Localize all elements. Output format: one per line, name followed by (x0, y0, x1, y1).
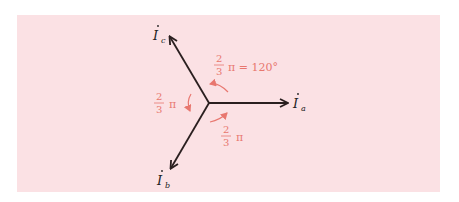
phasor-ib-arrow (171, 103, 209, 168)
svg-text:a: a (301, 104, 306, 113)
svg-text:π: π (169, 98, 176, 111)
angle-label-bottom: 2 3 π (221, 124, 243, 148)
angle-arc-top (210, 84, 228, 92)
label-ia: I a (292, 93, 306, 113)
svg-text:c: c (161, 36, 166, 45)
svg-text:3: 3 (156, 104, 162, 115)
svg-text:π: π (236, 131, 243, 144)
svg-text:b: b (165, 181, 170, 190)
svg-text:I: I (152, 28, 159, 43)
angle-arc-left (188, 94, 191, 111)
phasor-diagram: I a I c I b 2 3 π = 120° 2 3 π 2 3 π (0, 0, 459, 202)
svg-text:I: I (156, 173, 163, 188)
svg-text:3: 3 (223, 137, 229, 148)
svg-text:π = 120°: π = 120° (228, 61, 278, 74)
svg-text:2: 2 (223, 124, 229, 135)
svg-text:2: 2 (156, 91, 162, 102)
svg-text:3: 3 (216, 66, 222, 77)
angle-label-top: 2 3 π = 120° (214, 53, 278, 77)
label-ib: I b (156, 170, 170, 190)
svg-text:I: I (292, 96, 299, 111)
angle-arc-bottom (210, 113, 227, 122)
label-ic: I c (152, 25, 166, 45)
phasor-ic-arrow (170, 37, 209, 103)
angle-label-left: 2 3 π (154, 91, 176, 115)
svg-text:2: 2 (216, 53, 222, 64)
